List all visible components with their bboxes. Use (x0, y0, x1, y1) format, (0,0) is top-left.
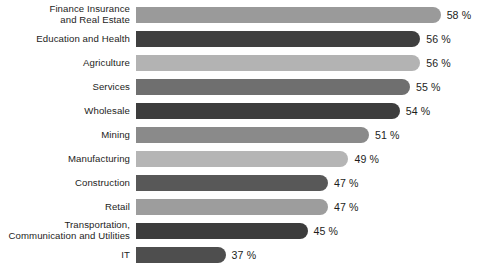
value-bar[interactable] (136, 127, 369, 143)
chart-row: Services 55 % (0, 75, 495, 99)
bar-track: 49 % (136, 147, 495, 171)
value-label: 56 % (426, 57, 451, 69)
chart-row: Wholesale 54 % (0, 99, 495, 123)
bar-track: 55 % (136, 75, 495, 99)
bar-track: 51 % (136, 123, 495, 147)
category-label: Mining (0, 130, 136, 141)
chart-row: Agriculture 56 % (0, 51, 495, 75)
value-label: 47 % (334, 177, 359, 189)
value-bar[interactable] (136, 7, 441, 23)
value-label: 51 % (375, 129, 400, 141)
category-label: Education and Health (0, 34, 136, 45)
value-bar[interactable] (136, 247, 226, 263)
value-label: 49 % (354, 153, 379, 165)
chart-row: Retail 47 % (0, 195, 495, 219)
chart-row: IT 37 % (0, 243, 495, 267)
chart-row: Construction 47 % (0, 171, 495, 195)
category-label: Agriculture (0, 58, 136, 69)
value-bar[interactable] (136, 79, 410, 95)
category-label: Manufacturing (0, 154, 136, 165)
category-label: IT (0, 250, 136, 261)
category-label: Finance Insurance and Real Estate (0, 4, 136, 25)
value-label: 45 % (314, 225, 339, 237)
category-label: Retail (0, 202, 136, 213)
chart-row: Education and Health 56 % (0, 27, 495, 51)
value-label: 37 % (232, 249, 257, 261)
value-bar[interactable] (136, 55, 420, 71)
chart-row: Transportation, Communication and Utilit… (0, 219, 495, 243)
value-label: 58 % (447, 9, 472, 21)
value-label: 47 % (334, 201, 359, 213)
chart-row: Mining 51 % (0, 123, 495, 147)
value-bar[interactable] (136, 175, 328, 191)
value-bar[interactable] (136, 151, 348, 167)
bar-track: 56 % (136, 51, 495, 75)
value-bar[interactable] (136, 223, 308, 239)
chart-row: Manufacturing 49 % (0, 147, 495, 171)
bar-track: 47 % (136, 195, 495, 219)
value-bar[interactable] (136, 31, 420, 47)
category-label: Construction (0, 178, 136, 189)
bar-track: 47 % (136, 171, 495, 195)
value-bar[interactable] (136, 199, 328, 215)
value-bar[interactable] (136, 103, 400, 119)
bar-chart: Finance Insurance and Real Estate 58 % E… (0, 0, 495, 267)
value-label: 55 % (416, 81, 441, 93)
bar-track: 58 % (136, 3, 495, 27)
bar-track: 56 % (136, 27, 495, 51)
bar-track: 45 % (136, 219, 495, 243)
value-label: 54 % (406, 105, 431, 117)
bar-track: 54 % (136, 99, 495, 123)
bar-chart-rows: Finance Insurance and Real Estate 58 % E… (0, 0, 495, 267)
value-label: 56 % (426, 33, 451, 45)
category-label: Services (0, 82, 136, 93)
chart-row: Finance Insurance and Real Estate 58 % (0, 3, 495, 27)
category-label: Transportation, Communication and Utilit… (0, 220, 136, 241)
bar-track: 37 % (136, 243, 495, 267)
category-label: Wholesale (0, 106, 136, 117)
